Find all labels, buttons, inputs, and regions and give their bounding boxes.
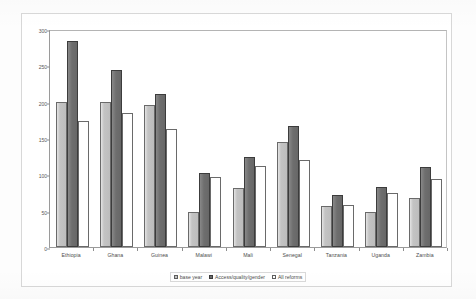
y-tick-label: 200 [39,101,47,107]
bar-group [144,31,177,247]
x-axis-label: Mali [243,252,253,258]
bar [332,195,343,247]
chart-legend: base yearAccess/quality/genderAll reform… [0,272,476,282]
x-axis-label: Senegal [283,252,302,258]
x-axis-label: Guinea [151,252,168,258]
y-tick-label: 100 [39,173,47,179]
y-tick-label: 150 [39,137,47,143]
bar [122,113,133,247]
legend-item: base year [174,274,202,280]
x-tick-mark [93,248,94,251]
x-tick-mark [182,248,183,251]
legend-item: All reforms [272,274,302,280]
x-tick-mark [226,248,227,251]
bar [277,142,288,247]
legend-item: Access/quality/gender [209,274,265,280]
bar-chart: unit costs ($PPP) 050100150200250300 Eth… [0,0,476,299]
bar [210,177,221,247]
bar [343,205,354,247]
x-tick-mark [447,248,448,251]
bar-group [188,31,221,247]
bar-group [365,31,398,247]
bar [100,102,111,247]
y-tick-mark [47,31,50,32]
bar [111,70,122,247]
bar-group [233,31,266,247]
x-axis-label: Ghana [107,252,123,258]
bar [387,193,398,248]
x-tick-mark [403,248,404,251]
y-tick-label: 250 [39,64,47,70]
bar-group [321,31,354,247]
x-axis-label: Zambia [416,252,434,258]
figure-root: unit costs ($PPP) 050100150200250300 Eth… [0,0,476,299]
bar-group [409,31,442,247]
y-tick-mark [47,103,50,104]
bar [255,166,266,247]
legend-label: Access/quality/gender [215,274,265,280]
y-tick-mark [47,176,50,177]
y-tick-mark [47,249,50,250]
y-tick-mark [47,67,50,68]
x-axis-label: Ethiopia [62,252,81,258]
bar [78,121,89,247]
x-tick-mark [314,248,315,251]
y-tick-label: 300 [39,28,47,34]
bar [244,157,255,247]
legend-box: base yearAccess/quality/genderAll reform… [170,272,307,282]
bar [431,179,442,247]
bar-group [56,31,89,247]
bar-group [100,31,133,247]
bar [321,206,332,247]
y-tick-mark [47,140,50,141]
bar-group [277,31,310,247]
x-axis-label: Uganda [371,252,389,258]
bar [376,187,387,247]
y-tick-mark [47,212,50,213]
x-axis-label: Tanzania [326,252,347,258]
legend-swatch [209,275,213,279]
bar [420,167,431,247]
bar [166,129,177,247]
bar [199,173,210,247]
legend-swatch [174,275,178,279]
bar [288,126,299,247]
x-tick-mark [137,248,138,251]
bar [233,188,244,247]
legend-label: All reforms [278,274,302,280]
bar [188,212,199,247]
x-tick-mark [359,248,360,251]
bar [365,212,376,247]
bar [67,41,78,247]
x-axis-label: Malawi [196,252,212,258]
x-tick-mark [270,248,271,251]
legend-swatch [272,275,276,279]
legend-label: base year [180,274,202,280]
bar [56,102,67,247]
bar [144,105,155,247]
bar [299,160,310,247]
plot-area: unit costs ($PPP) 050100150200250300 [49,30,447,248]
bar [155,94,166,247]
bar [409,198,420,247]
